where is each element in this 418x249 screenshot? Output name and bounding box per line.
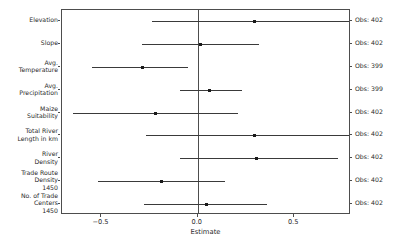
- x-axis-tick-label: −0.5: [92, 218, 108, 226]
- plot-panel: [61, 9, 350, 214]
- y-axis-label-line: Avg.: [0, 58, 58, 66]
- y-axis-label-line: Total River: [0, 127, 58, 135]
- y-axis-label-line: Slope: [0, 39, 58, 47]
- observation-count-label: Obs: 402: [355, 39, 383, 47]
- estimate-point: [154, 112, 157, 115]
- observation-count-label: Obs: 402: [355, 131, 383, 139]
- estimate-point: [160, 180, 163, 183]
- observation-count-label: Obs: 402: [355, 153, 383, 161]
- x-axis-title: Estimate: [61, 228, 350, 236]
- observation-count-label: Obs: 399: [355, 85, 383, 93]
- observation-count-label: Obs: 399: [355, 62, 383, 70]
- y-axis-label-line: Avg.: [0, 81, 58, 89]
- y-axis-label-line: Precipitation: [0, 89, 58, 97]
- x-axis: −0.50.00.5: [61, 214, 350, 226]
- observation-count-label: Obs: 402: [355, 199, 383, 207]
- y-axis-tick: [58, 112, 60, 113]
- y-axis-label-line: Trade Route: [0, 169, 58, 177]
- estimate-point: [255, 157, 258, 160]
- x-axis-tick-label: 0.0: [192, 218, 203, 226]
- y-axis-tick: [58, 180, 60, 181]
- y-axis-tick: [58, 20, 60, 21]
- estimate-point: [208, 89, 211, 92]
- y-axis-label: No. of TradeCenters1450: [0, 191, 58, 214]
- observation-axis-tick: [350, 43, 352, 44]
- y-axis-tick: [58, 134, 60, 135]
- y-axis-label: Trade RouteDensity1450: [0, 169, 58, 192]
- confidence-interval-bar: [180, 158, 338, 159]
- observation-axis-tick: [350, 112, 352, 113]
- x-axis-tick: [293, 214, 294, 217]
- observation-count-label: Obs: 402: [355, 108, 383, 116]
- coefficient-plot-figure: ElevationSlopeAvg.TemperatureAvg.Precipi…: [0, 0, 418, 249]
- y-axis-label-line: Temperature: [0, 66, 58, 74]
- y-axis-label: MaizeSuitability: [0, 104, 58, 119]
- observation-axis-tick: [350, 180, 352, 181]
- estimate-point: [253, 20, 256, 23]
- estimate-point: [253, 134, 256, 137]
- observation-axis-tick: [350, 20, 352, 21]
- y-axis-label: Elevation: [0, 17, 58, 25]
- observation-count-label: Obs: 402: [355, 176, 383, 184]
- y-axis-labels: ElevationSlopeAvg.TemperatureAvg.Precipi…: [0, 9, 58, 214]
- estimate-point: [199, 43, 202, 46]
- y-axis-label-line: Suitability: [0, 112, 58, 120]
- y-axis-label-line: Length in km: [0, 134, 58, 142]
- y-axis-label-line: No. of Trade: [0, 191, 58, 199]
- y-axis-label-line: Elevation: [0, 17, 58, 25]
- plot-top-strip: [61, 0, 350, 8]
- y-axis-label-line: Centers: [0, 199, 58, 207]
- x-axis-tick: [100, 214, 101, 217]
- y-axis-label: RiverDensity: [0, 150, 58, 165]
- y-axis-label: Slope: [0, 39, 58, 47]
- estimate-point: [205, 203, 208, 206]
- observation-axis-tick: [350, 203, 352, 204]
- y-axis-tick: [58, 203, 60, 204]
- y-axis-label-line: Density: [0, 176, 58, 184]
- y-axis-label: Total RiverLength in km: [0, 127, 58, 142]
- y-axis-tick: [58, 43, 60, 44]
- y-axis-label: Avg.Temperature: [0, 58, 58, 73]
- y-axis-tick: [58, 89, 60, 90]
- observation-axis-tick: [350, 66, 352, 67]
- confidence-interval-bar: [152, 21, 350, 22]
- y-axis-tick: [58, 66, 60, 67]
- observation-count-label: Obs: 402: [355, 17, 383, 25]
- y-axis-tick: [58, 157, 60, 158]
- observation-axis-tick: [350, 134, 352, 135]
- y-axis-label-line: Maize: [0, 104, 58, 112]
- y-axis-label-line: 1450: [0, 206, 58, 214]
- y-axis-label-line: Density: [0, 157, 58, 165]
- observation-axis-tick: [350, 157, 352, 158]
- zero-reference-line: [198, 10, 199, 213]
- x-axis-tick: [197, 214, 198, 217]
- y-axis-label: Avg.Precipitation: [0, 81, 58, 96]
- x-axis-tick-label: 0.5: [288, 218, 299, 226]
- y-axis-label-line: 1450: [0, 184, 58, 192]
- confidence-interval-bar: [146, 135, 350, 136]
- observation-axis-tick: [350, 89, 352, 90]
- observation-count-labels: Obs: 402Obs: 402Obs: 399Obs: 399Obs: 402…: [350, 9, 418, 214]
- y-axis-label-line: River: [0, 150, 58, 158]
- estimate-point: [141, 66, 144, 69]
